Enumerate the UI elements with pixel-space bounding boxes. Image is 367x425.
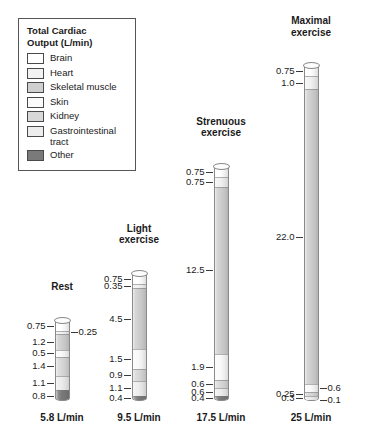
segment-divider — [215, 380, 228, 381]
bar-segment-gastrointestinal-tract — [215, 388, 228, 396]
segment-divider — [215, 396, 228, 397]
column-title-rest: Rest — [17, 281, 107, 293]
segment-value-label-heart: 0.35 — [104, 281, 132, 291]
bar-cylinder-maximal-exercise: 0.751.022.00.60.250.30.1 — [304, 66, 319, 401]
bar-segment-heart — [305, 76, 318, 89]
segment-value-label-other: 0.4 — [191, 393, 213, 403]
segment-value-label-skin: 0.5 — [32, 348, 54, 358]
bar-segment-skeletal-muscle — [305, 89, 318, 384]
bar-column-strenuous-exercise: 0.750.7512.51.90.60.60.4Strenuous exerci… — [214, 0, 229, 425]
segment-value-label-skin: 1.9 — [191, 362, 213, 372]
segment-divider — [56, 357, 69, 358]
bar-segment-skeletal-muscle — [133, 288, 146, 348]
segment-value-label-skin: 0.6 — [319, 383, 341, 393]
segment-value-label-skeletal-muscle: 1.2 — [32, 337, 54, 347]
segment-value-label-skin: 1.5 — [109, 354, 131, 364]
bar-body — [55, 321, 70, 401]
segment-divider — [133, 396, 146, 397]
segment-divider — [56, 390, 69, 391]
segment-value-label-gastrointestinal-tract: 1.1 — [32, 378, 54, 388]
column-title-strenuous-exercise: Strenuous exercise — [176, 116, 266, 139]
bar-segment-skin — [133, 349, 146, 369]
bar-segment-skin — [305, 384, 318, 392]
segment-divider — [56, 376, 69, 377]
segment-divider — [133, 349, 146, 350]
cylinder-top-ellipse — [131, 270, 148, 277]
segment-value-label-other: 0.4 — [109, 393, 131, 403]
segment-divider — [56, 334, 69, 335]
column-total-maximal-exercise: 25 L/min — [291, 412, 332, 423]
column-total-light-exercise: 9.5 L/min — [117, 412, 160, 423]
column-total-strenuous-exercise: 17.5 L/min — [197, 412, 246, 423]
segment-divider — [305, 400, 318, 401]
segment-divider — [215, 177, 228, 178]
segment-divider — [305, 392, 318, 393]
segment-divider — [305, 89, 318, 90]
bar-segment-kidney — [215, 380, 228, 388]
segment-divider — [56, 331, 69, 332]
segment-divider — [305, 396, 318, 397]
segment-divider — [305, 76, 318, 77]
segment-value-label-heart: 0.75 — [186, 177, 214, 187]
segment-divider — [305, 384, 318, 385]
segment-value-label-heart: 1.0 — [281, 78, 303, 88]
bar-cylinder-rest: 0.750.251.20.51.41.10.8 — [55, 321, 70, 401]
column-title-maximal-exercise: Maximal exercise — [266, 15, 356, 38]
bar-segment-gastrointestinal-tract — [133, 381, 146, 396]
segment-value-label-brain: 0.75 — [276, 66, 304, 76]
segment-value-label-brain: 0.75 — [27, 321, 55, 331]
stacked-bar-chart: 0.750.251.20.51.41.10.8Rest5.8 L/min0.75… — [0, 0, 367, 425]
segment-value-label-skeletal-muscle: 12.5 — [186, 265, 214, 275]
segment-divider — [133, 288, 146, 289]
segment-value-label-gastrointestinal-tract: 0.3 — [281, 393, 303, 403]
segment-value-label-skeletal-muscle: 4.5 — [109, 314, 131, 324]
bar-column-rest: 0.750.251.20.51.41.10.8Rest5.8 L/min — [55, 0, 70, 425]
segment-value-label-heart: 0.25 — [70, 327, 98, 337]
column-total-rest: 5.8 L/min — [40, 412, 83, 423]
segment-divider — [133, 284, 146, 285]
segment-divider — [215, 187, 228, 188]
column-title-light-exercise: Light exercise — [94, 223, 184, 246]
segment-value-label-kidney: 1.4 — [32, 361, 54, 371]
segment-value-label-other: 0.8 — [32, 391, 54, 401]
bar-segment-kidney — [133, 369, 146, 381]
bar-segment-skin — [56, 350, 69, 357]
segment-divider — [215, 354, 228, 355]
segment-value-label-skeletal-muscle: 22.0 — [276, 232, 304, 242]
bar-segment-gastrointestinal-tract — [56, 376, 69, 391]
bar-body — [214, 167, 229, 402]
segment-divider — [215, 388, 228, 389]
bar-cylinder-light-exercise: 0.750.354.51.50.91.10.4 — [132, 274, 147, 401]
bar-body — [304, 66, 319, 401]
cylinder-top-ellipse — [54, 317, 71, 324]
bar-segment-other — [56, 390, 69, 401]
cylinder-top-ellipse — [303, 62, 320, 69]
bar-column-light-exercise: 0.750.354.51.50.91.10.4Light exercise9.5… — [132, 0, 147, 425]
bar-segment-skeletal-muscle — [56, 334, 69, 350]
bar-column-maximal-exercise: 0.751.022.00.60.250.30.1Maximal exercise… — [304, 0, 319, 425]
bar-segment-skin — [215, 354, 228, 379]
segment-divider — [56, 350, 69, 351]
bar-body — [132, 274, 147, 401]
segment-divider — [133, 381, 146, 382]
segment-divider — [133, 369, 146, 370]
bar-segment-kidney — [56, 357, 69, 376]
segment-value-label-other: 0.1 — [319, 395, 341, 405]
bar-segment-heart — [215, 177, 228, 187]
bar-cylinder-strenuous-exercise: 0.750.7512.51.90.60.60.4 — [214, 167, 229, 402]
bar-segment-skeletal-muscle — [215, 187, 228, 355]
cylinder-top-ellipse — [213, 163, 230, 170]
segment-value-label-kidney: 0.9 — [109, 370, 131, 380]
